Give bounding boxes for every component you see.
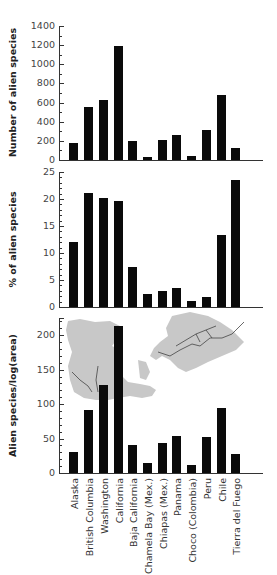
- bar-british-columbia: [84, 410, 93, 473]
- x-category-label: Peru: [202, 478, 213, 575]
- y-minor-tick: [60, 411, 62, 412]
- x-category-label: British Columbia: [84, 478, 95, 575]
- y-tick-label: 0: [25, 468, 55, 478]
- y-major-tick: [60, 473, 64, 474]
- x-category-label: Choco (Colombia): [187, 478, 198, 575]
- x-axis: [59, 473, 263, 474]
- x-category-label: Tierra del Fuego: [231, 478, 242, 575]
- y-minor-tick: [60, 328, 62, 329]
- x-category-label: Washington: [99, 478, 110, 575]
- y-minor-tick: [60, 432, 62, 433]
- y-minor-tick: [60, 452, 62, 453]
- y-minor-tick: [60, 466, 62, 467]
- y-minor-tick: [60, 397, 62, 398]
- y-major-tick: [60, 404, 64, 405]
- y-minor-tick: [60, 383, 62, 384]
- x-category-label: Chile: [217, 478, 228, 575]
- y-minor-tick: [60, 342, 62, 343]
- y-major-tick: [60, 439, 64, 440]
- bar-choco-colombia: [187, 465, 196, 473]
- x-category-label: Alaska: [69, 478, 80, 575]
- bar-alaska: [69, 452, 78, 473]
- bar-chamela-bay-mex: [143, 463, 152, 473]
- y-tick-label: 150: [25, 365, 55, 375]
- y-minor-tick: [60, 321, 62, 322]
- bar-chiapas-mex: [158, 443, 167, 473]
- bar-tierra-del-fuego: [231, 454, 240, 473]
- y-axis-cap: [60, 318, 64, 319]
- bar-peru: [202, 437, 211, 473]
- bar-washington: [99, 385, 108, 473]
- x-category-label: Chamela Bay (Mex.): [143, 478, 154, 575]
- bar-california: [114, 326, 123, 473]
- x-category-label: Panama: [172, 478, 183, 575]
- y-minor-tick: [60, 377, 62, 378]
- x-category-label: California: [114, 478, 125, 575]
- y-axis-label: Alien species/log(area): [7, 325, 18, 465]
- y-minor-tick: [60, 356, 62, 357]
- y-minor-tick: [60, 445, 62, 446]
- y-minor-tick: [60, 459, 62, 460]
- y-major-tick: [60, 370, 64, 371]
- y-minor-tick: [60, 349, 62, 350]
- y-tick-label: 50: [25, 434, 55, 444]
- y-minor-tick: [60, 390, 62, 391]
- bar-panama: [172, 436, 181, 473]
- y-major-tick: [60, 335, 64, 336]
- y-minor-tick: [60, 418, 62, 419]
- bar-baja-california: [128, 445, 137, 473]
- x-category-label: Chiapas (Mex.): [158, 478, 169, 575]
- y-tick-label: 100: [25, 399, 55, 409]
- x-category-label: Baja California: [128, 478, 139, 575]
- y-minor-tick: [60, 425, 62, 426]
- y-minor-tick: [60, 363, 62, 364]
- y-tick-label: 200: [25, 330, 55, 340]
- bar-chile: [217, 408, 226, 473]
